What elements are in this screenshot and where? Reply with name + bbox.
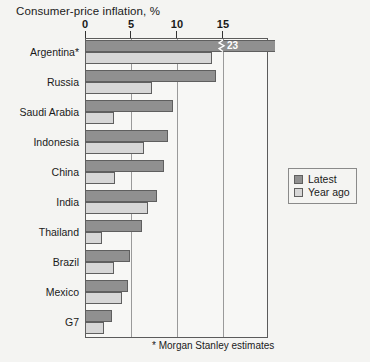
category-label-china: China — [52, 166, 79, 178]
tick-0 — [85, 31, 86, 38]
legend-swatch-year-ago — [294, 188, 303, 197]
tick-label-5: 5 — [128, 18, 134, 30]
bar-thailand-latest — [85, 220, 142, 232]
bar-brazil-latest — [85, 250, 130, 262]
legend-label-latest: Latest — [308, 173, 337, 186]
bar-brazil-year-ago — [85, 262, 114, 274]
category-label-india: India — [56, 196, 79, 208]
tick-label-0: 0 — [82, 18, 88, 30]
bar-saudi-arabia-year-ago — [85, 112, 114, 124]
legend-label-year-ago: Year ago — [308, 186, 350, 199]
y-axis-category-labels: Argentina*RussiaSaudi ArabiaIndonesiaChi… — [0, 38, 83, 338]
category-label-thailand: Thailand — [39, 226, 79, 238]
bar-china-latest — [85, 160, 164, 172]
bar-indonesia-latest — [85, 130, 168, 142]
tick-label-10: 10 — [171, 18, 183, 30]
bar-argentina-year-ago — [85, 52, 212, 64]
bar-india-year-ago — [85, 202, 148, 214]
bar-china-year-ago — [85, 172, 115, 184]
bars-layer: 23 — [85, 38, 268, 338]
bar-saudi-arabia-latest — [85, 100, 173, 112]
legend-item-year-ago[interactable]: Year ago — [294, 186, 350, 199]
tick-15 — [222, 31, 223, 38]
category-label-indonesia: Indonesia — [33, 136, 79, 148]
chart-footnote: * Morgan Stanley estimates — [152, 340, 274, 351]
bar-india-latest — [85, 190, 157, 202]
legend-item-latest[interactable]: Latest — [294, 173, 350, 186]
bar-thailand-year-ago — [85, 232, 102, 244]
category-label-argentina: Argentina* — [30, 46, 79, 58]
x-axis-tick-labels: 051015 — [0, 18, 370, 32]
bar-indonesia-year-ago — [85, 142, 144, 154]
bar-russia-year-ago — [85, 82, 152, 94]
bar-mexico-latest — [85, 280, 128, 292]
chart-legend: Latest Year ago — [288, 168, 357, 204]
bar-russia-latest — [85, 70, 216, 82]
legend-swatch-latest — [294, 175, 303, 184]
category-label-g7: G7 — [65, 316, 79, 328]
tick-5 — [130, 31, 131, 38]
tick-label-15: 15 — [217, 18, 229, 30]
bar-value-label-argentina-latest: 23 — [227, 41, 238, 51]
bar-g7-year-ago — [85, 322, 104, 334]
category-label-russia: Russia — [47, 76, 79, 88]
category-label-mexico: Mexico — [46, 286, 79, 298]
category-label-saudi-arabia: Saudi Arabia — [19, 106, 79, 118]
tick-10 — [176, 31, 177, 38]
bar-g7-latest — [85, 310, 112, 322]
page-title: Consumer-price inflation, % — [16, 5, 160, 17]
category-label-brazil: Brazil — [53, 256, 79, 268]
bar-argentina-latest — [85, 40, 275, 52]
bar-mexico-year-ago — [85, 292, 122, 304]
